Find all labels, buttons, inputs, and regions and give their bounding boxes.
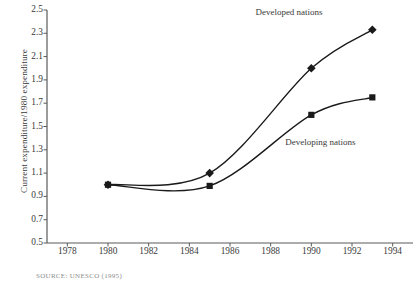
x-axis-tick-label: 1994 — [373, 246, 413, 256]
data-point-marker-square — [369, 94, 375, 100]
data-point-marker-square — [105, 182, 111, 188]
axes — [44, 10, 414, 247]
y-axis-tick-label: 1.5 — [19, 121, 43, 131]
data-point-marker-square — [207, 183, 213, 189]
y-axis-tick-label: 1.3 — [19, 144, 43, 154]
x-axis-tick-label: 1992 — [332, 246, 372, 256]
y-axis-tick-label: 2.3 — [19, 27, 43, 37]
plot-area — [0, 0, 419, 285]
series-label-developing-nations: Developing nations — [285, 137, 355, 147]
x-axis-tick-label: 1980 — [88, 246, 128, 256]
x-axis-tick-label: 1988 — [251, 246, 291, 256]
y-axis-tick-label: 2.1 — [19, 51, 43, 61]
y-axis-tick-label: 0.9 — [19, 190, 43, 200]
chart-figure: Current expenditure/1980 expenditure 0.5… — [0, 0, 419, 285]
x-axis-tick-label: 1978 — [47, 246, 87, 256]
y-axis-tick-label: 1.7 — [19, 97, 43, 107]
data-series — [104, 26, 377, 191]
x-axis-tick-label: 1990 — [291, 246, 331, 256]
x-axis-tick-labels: 197819801982198419861988199019921994 — [0, 246, 419, 264]
series-line-developed-nations — [108, 30, 372, 186]
y-axis-tick-label: 1.1 — [19, 167, 43, 177]
x-axis-tick-label: 1982 — [129, 246, 169, 256]
source-note: SOURCE: UNESCO (1995) — [36, 272, 122, 280]
data-point-marker-square — [308, 112, 314, 118]
y-axis-tick-label: 1.9 — [19, 74, 43, 84]
y-axis-tick-label: 0.7 — [19, 214, 43, 224]
series-label-developed-nations: Developed nations — [255, 7, 322, 17]
y-axis-tick-label: 2.5 — [19, 4, 43, 14]
data-point-marker-diamond — [368, 26, 377, 35]
x-axis-tick-label: 1984 — [169, 246, 209, 256]
y-axis-tick-labels: 0.50.70.91.11.31.51.71.92.12.32.5 — [17, 0, 43, 285]
data-point-marker-diamond — [205, 169, 214, 178]
x-axis-tick-label: 1986 — [210, 246, 250, 256]
